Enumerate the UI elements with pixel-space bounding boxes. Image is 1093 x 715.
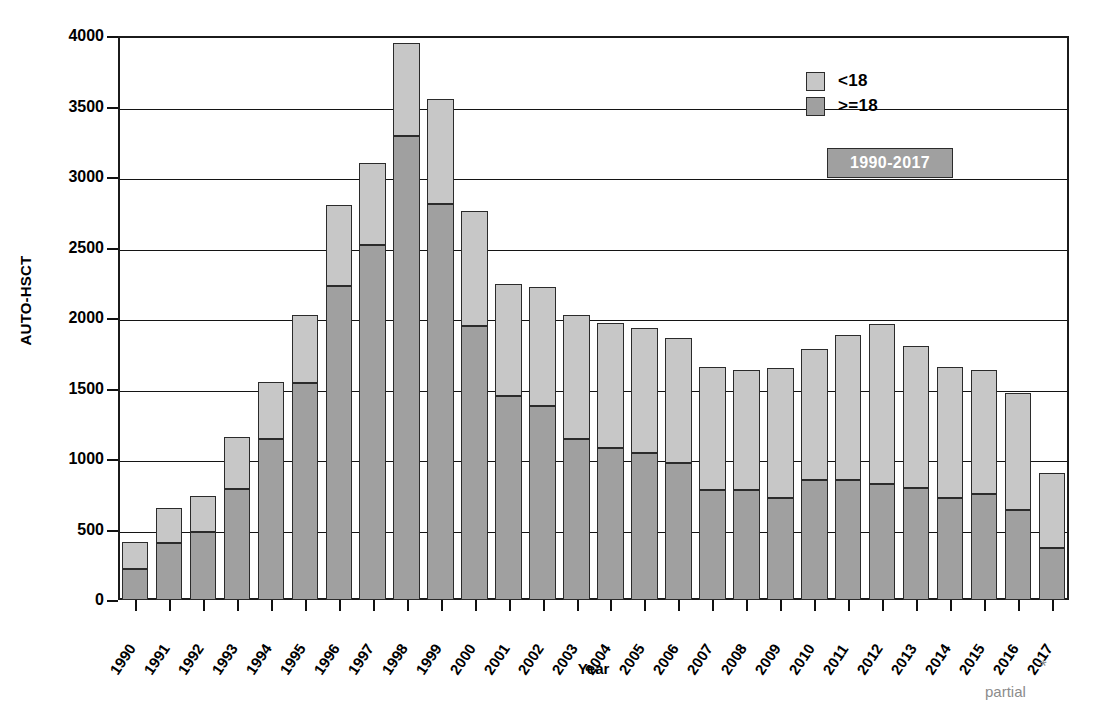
bar-segment-adult[interactable] (224, 489, 250, 600)
bar-segment-child[interactable] (835, 335, 861, 480)
bar-segment-adult[interactable] (869, 484, 895, 600)
bar-segment-child[interactable] (224, 437, 250, 488)
bar-segment-child[interactable] (971, 370, 997, 494)
bar-segment-adult[interactable] (631, 453, 657, 600)
bar-segment-adult[interactable] (393, 136, 419, 600)
bar-segment-child[interactable] (495, 284, 521, 395)
bar-group[interactable] (631, 36, 657, 600)
bar-segment-adult[interactable] (122, 569, 148, 600)
bar-segment-adult[interactable] (529, 406, 555, 600)
bar-segment-child[interactable] (699, 367, 725, 490)
y-tick-mark (107, 459, 118, 461)
x-tick-mark (509, 600, 511, 611)
bar-segment-adult[interactable] (767, 498, 793, 600)
bar-group[interactable] (733, 36, 759, 600)
bar-segment-adult[interactable] (665, 463, 691, 600)
bar-segment-child[interactable] (767, 368, 793, 498)
bar-segment-child[interactable] (733, 370, 759, 490)
x-tick-mark (169, 600, 171, 611)
bar-segment-adult[interactable] (1005, 510, 1031, 600)
bar-group[interactable] (495, 36, 521, 600)
bar-group[interactable] (427, 36, 453, 600)
bar-group[interactable] (258, 36, 284, 600)
y-tick-label: 2000 (42, 309, 104, 327)
bar-segment-adult[interactable] (563, 439, 589, 600)
bar-segment-adult[interactable] (258, 439, 284, 600)
bar-segment-child[interactable] (393, 43, 419, 136)
bar-segment-child[interactable] (326, 205, 352, 287)
legend: <18>=18 (806, 70, 878, 120)
bar-segment-adult[interactable] (1039, 548, 1065, 600)
bar-segment-child[interactable] (563, 315, 589, 438)
bar-group[interactable] (359, 36, 385, 600)
bar-group[interactable] (529, 36, 555, 600)
bar-group[interactable] (461, 36, 487, 600)
x-tick-mark (203, 600, 205, 611)
bar-segment-adult[interactable] (835, 480, 861, 600)
bar-group[interactable] (393, 36, 419, 600)
bar-segment-adult[interactable] (427, 204, 453, 600)
bar-segment-adult[interactable] (326, 286, 352, 600)
bar-segment-child[interactable] (156, 508, 182, 543)
x-tick-mark (543, 600, 545, 611)
bar-segment-adult[interactable] (461, 326, 487, 600)
bar-segment-child[interactable] (631, 328, 657, 453)
bar-group[interactable] (971, 36, 997, 600)
bar-group[interactable] (801, 36, 827, 600)
legend-item[interactable]: >=18 (806, 95, 878, 117)
bar-group[interactable] (1039, 36, 1065, 600)
bar-segment-child[interactable] (359, 163, 385, 245)
bar-segment-child[interactable] (427, 99, 453, 203)
bar-segment-child[interactable] (461, 211, 487, 327)
bar-group[interactable] (224, 36, 250, 600)
bar-segment-adult[interactable] (292, 383, 318, 600)
bar-segment-adult[interactable] (971, 494, 997, 600)
bar-group[interactable] (156, 36, 182, 600)
bar-segment-adult[interactable] (190, 532, 216, 600)
x-tick-mark (644, 600, 646, 611)
bar-group[interactable] (767, 36, 793, 600)
bar-segment-adult[interactable] (937, 498, 963, 600)
bar-group[interactable] (665, 36, 691, 600)
bar-segment-adult[interactable] (699, 490, 725, 600)
x-tick-mark (916, 600, 918, 611)
bar-segment-child[interactable] (801, 349, 827, 480)
bar-group[interactable] (869, 36, 895, 600)
bar-group[interactable] (699, 36, 725, 600)
bar-group[interactable] (903, 36, 929, 600)
bar-segment-adult[interactable] (597, 448, 623, 600)
bar-segment-child[interactable] (292, 315, 318, 383)
bar-group[interactable] (563, 36, 589, 600)
bar-segment-child[interactable] (869, 324, 895, 483)
bar-group[interactable] (937, 36, 963, 600)
x-tick-mark (373, 600, 375, 611)
bar-group[interactable] (190, 36, 216, 600)
bar-segment-adult[interactable] (801, 480, 827, 600)
bar-segment-child[interactable] (937, 367, 963, 498)
bar-group[interactable] (326, 36, 352, 600)
bar-group[interactable] (835, 36, 861, 600)
legend-item[interactable]: <18 (806, 70, 878, 92)
y-tick-label: 500 (42, 521, 104, 539)
bar-group[interactable] (292, 36, 318, 600)
bar-segment-child[interactable] (190, 496, 216, 532)
x-tick-mark (746, 600, 748, 611)
y-axis-title: AUTO-HSCT (8, 0, 44, 600)
bar-segment-child[interactable] (258, 382, 284, 439)
bar-segment-adult[interactable] (733, 490, 759, 600)
bar-segment-adult[interactable] (359, 245, 385, 600)
bar-segment-child[interactable] (1039, 473, 1065, 548)
bar-segment-adult[interactable] (903, 488, 929, 600)
bar-segment-child[interactable] (665, 338, 691, 463)
bar-segment-child[interactable] (122, 542, 148, 569)
bar-segment-adult[interactable] (495, 396, 521, 600)
bar-segment-child[interactable] (529, 287, 555, 406)
bar-group[interactable] (122, 36, 148, 600)
bar-group[interactable] (1005, 36, 1031, 600)
bar-group[interactable] (597, 36, 623, 600)
y-tick-mark (107, 318, 118, 320)
bar-segment-child[interactable] (1005, 393, 1031, 510)
bar-segment-child[interactable] (903, 346, 929, 488)
bar-segment-child[interactable] (597, 323, 623, 448)
bar-segment-adult[interactable] (156, 543, 182, 600)
